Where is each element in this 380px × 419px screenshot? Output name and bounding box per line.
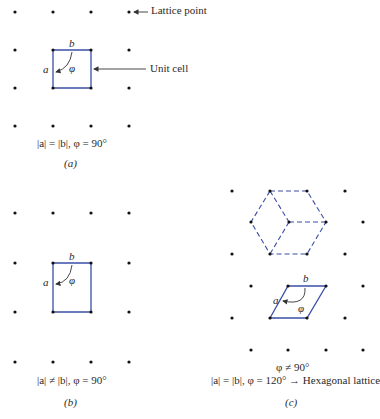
angle-phi-label: φ: [69, 62, 75, 74]
lattice-point-label: Lattice point: [151, 4, 207, 16]
vector-a-label: a: [43, 276, 49, 288]
condition-b: |a| ≠ |b|, φ = 90°: [37, 374, 107, 386]
vector-b-label: b: [303, 272, 309, 284]
lattice-points: [13, 211, 130, 363]
condition-c-line1: φ ≠ 90°: [276, 361, 309, 373]
caption-b: (b): [64, 396, 77, 408]
panel-c: [230, 189, 364, 351]
panel-a: [13, 10, 148, 127]
lattice-diagram: [0, 0, 380, 419]
unit-cell-label: Unit cell: [150, 62, 188, 74]
unit-cell-rectangle: [53, 263, 91, 312]
condition-c-line2: |a| = |b|, φ = 120° → Hexagonal lattice: [211, 374, 380, 386]
angle-phi-label: φ: [298, 302, 304, 314]
condition-a: |a| = |b|, φ = 90°: [37, 137, 107, 149]
vector-a-label: a: [43, 63, 49, 75]
caption-a: (a): [64, 157, 77, 169]
caption-c: (c): [285, 396, 297, 408]
angle-phi-label: φ: [69, 274, 75, 286]
lattice-points: [230, 189, 364, 351]
vector-b-label: b: [69, 250, 75, 262]
panel-b: [13, 211, 130, 363]
vector-b-label: b: [69, 37, 75, 49]
vector-a-label: a: [273, 294, 279, 306]
